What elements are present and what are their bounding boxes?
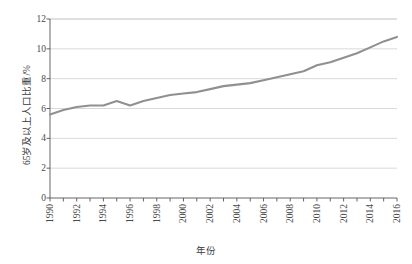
x-axis-title: 年份 [0,243,412,257]
x-tick-label: 2004 [232,204,242,223]
x-tick-label: 1994 [98,204,108,223]
x-tick-label: 1998 [152,204,162,223]
x-tick-label: 2000 [178,204,188,223]
x-tick-label: 2006 [259,204,269,223]
plot-area [0,0,412,264]
x-tick-label: 2016 [392,204,402,223]
x-tick-label: 2002 [205,204,215,223]
x-tick-label: 1992 [72,204,82,223]
x-tick-label: 2010 [312,204,322,223]
x-tick-label: 1990 [45,204,55,223]
x-tick-label: 2008 [285,204,295,223]
x-tick-label: 1996 [125,204,135,223]
chart-container: 65岁及以上人口比重/% 024681012 19901992199419961… [0,0,412,264]
x-tick-label: 2014 [365,204,375,223]
x-tick-label: 2012 [339,204,349,223]
